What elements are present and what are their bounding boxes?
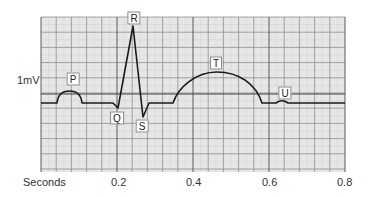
wave-label-s: S <box>136 120 149 133</box>
wave-label-p: P <box>67 73 80 86</box>
wave-label-t: T <box>210 57 222 70</box>
x-tick-0-4: 0.4 <box>186 176 201 188</box>
wave-label-q: Q <box>110 112 124 125</box>
x-tick-0-8: 0.8 <box>337 176 352 188</box>
x-tick-0-2: 0.2 <box>111 176 126 188</box>
x-tick-0-6: 0.6 <box>262 176 277 188</box>
y-reference-label: 1mV <box>17 74 40 86</box>
wave-label-r: R <box>127 12 140 25</box>
ecg-grid-chart <box>0 0 370 197</box>
wave-label-u: U <box>278 87 291 100</box>
x-axis-label: Seconds <box>23 176 66 188</box>
